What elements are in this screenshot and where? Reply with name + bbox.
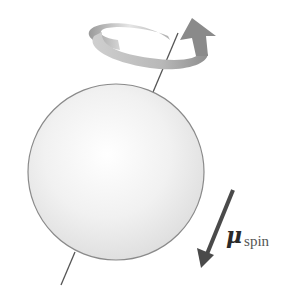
spin-diagram: μspin bbox=[0, 0, 296, 295]
diagram-graphic bbox=[0, 0, 296, 295]
mu-symbol: μ bbox=[226, 222, 242, 248]
mu-subscript: spin bbox=[244, 233, 269, 249]
mu-spin-label: μspin bbox=[226, 222, 269, 248]
spin-axis-bottom bbox=[61, 252, 75, 285]
electron-sphere bbox=[28, 84, 204, 260]
